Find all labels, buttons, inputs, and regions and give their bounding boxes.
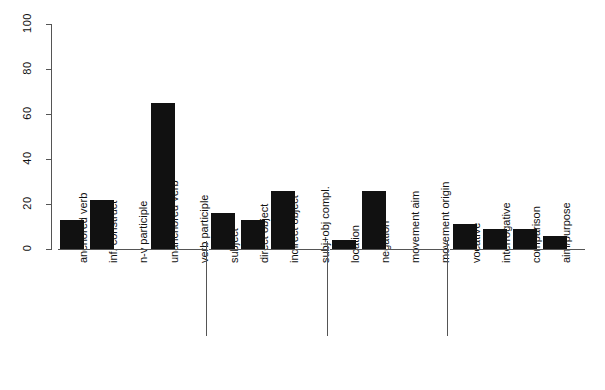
y-tick-mark bbox=[46, 204, 51, 205]
x-axis-segment bbox=[58, 249, 207, 250]
plot-area: 020406080100anchored verbinf. constructn… bbox=[0, 0, 605, 390]
y-tick-mark bbox=[46, 249, 51, 250]
y-tick-label: 40 bbox=[21, 143, 33, 173]
y-tick-mark bbox=[46, 159, 51, 160]
x-axis-label: inf. construct bbox=[107, 201, 119, 263]
x-axis-label: anchored verb bbox=[77, 193, 89, 263]
x-axis-label: subject bbox=[228, 228, 240, 263]
y-tick-label: 100 bbox=[21, 8, 33, 38]
bar-chart: 020406080100anchored verbinf. constructn… bbox=[0, 0, 605, 390]
group-separator bbox=[327, 241, 328, 336]
group-separator bbox=[447, 241, 448, 336]
x-axis-label: unanchored verb bbox=[168, 180, 180, 263]
x-axis-label: subj+obj compl. bbox=[319, 186, 331, 263]
x-axis-label: negation bbox=[379, 221, 391, 263]
x-axis-label: comparison bbox=[530, 206, 542, 263]
x-axis-label: movement aim bbox=[409, 191, 421, 263]
x-axis-label: interrogative bbox=[500, 202, 512, 263]
x-axis-label: indirect object bbox=[288, 195, 300, 263]
x-axis-segment-trailing bbox=[551, 249, 585, 250]
y-tick-mark bbox=[46, 69, 51, 70]
x-axis-label: aim/purpose bbox=[560, 202, 572, 263]
x-axis-label: direct object bbox=[258, 204, 270, 263]
x-axis-segment bbox=[330, 249, 449, 250]
y-tick-label: 60 bbox=[21, 98, 33, 128]
x-axis-label: n-v participle bbox=[137, 201, 149, 263]
y-axis-line bbox=[51, 24, 52, 250]
x-axis-segment bbox=[209, 249, 328, 250]
x-axis-label: movement origin bbox=[439, 182, 451, 263]
x-axis-label: location bbox=[349, 225, 361, 263]
x-axis-label: vocative bbox=[470, 223, 482, 263]
y-tick-label: 80 bbox=[21, 53, 33, 83]
y-tick-label: 0 bbox=[21, 233, 33, 263]
group-separator bbox=[206, 241, 207, 336]
x-axis-label: verb participle bbox=[198, 195, 210, 263]
y-tick-mark bbox=[46, 114, 51, 115]
y-tick-label: 20 bbox=[21, 188, 33, 218]
x-axis-segment-trailing bbox=[505, 249, 543, 250]
y-tick-mark bbox=[46, 24, 51, 25]
